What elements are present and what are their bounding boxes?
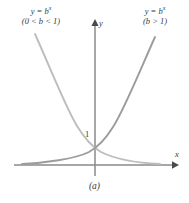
- plot-area: [0, 0, 189, 203]
- y-axis-label: y: [99, 19, 103, 29]
- exponential-functions-figure: y = bx (0 < b < 1) y = bx (b > 1) y x 1 …: [0, 0, 189, 203]
- growth-curve-equation: y = bx: [145, 6, 166, 16]
- y-axis-arrowhead: [91, 19, 98, 26]
- x-axis-label: x: [175, 150, 179, 160]
- figure-caption: (a): [0, 181, 189, 191]
- decay-curve-equation: y = bx: [31, 6, 52, 16]
- x-axis-arrowhead: [172, 161, 179, 168]
- growth-curve-condition: (b > 1): [124, 17, 186, 27]
- growth-curve: [22, 37, 155, 164]
- decay-curve: [35, 34, 160, 164]
- growth-curve-label: y = bx (b > 1): [124, 5, 186, 26]
- y-axis-tick-label-one: 1: [85, 130, 89, 140]
- decay-curve-condition: (0 < b < 1): [4, 17, 78, 27]
- decay-curve-label: y = bx (0 < b < 1): [4, 5, 78, 26]
